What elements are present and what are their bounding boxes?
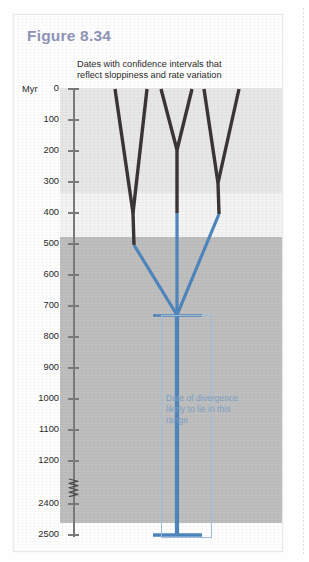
divergence-error-bar (14, 15, 282, 551)
range-note-line-2: likely to lie in this (166, 404, 258, 415)
divergence-range-box (161, 315, 212, 538)
page-background: Dates with confidence intervals that ref… (0, 0, 309, 562)
page-column-rule (303, 8, 304, 554)
range-note-line-1: Date of divergence (166, 393, 258, 404)
figure-title: Figure 8.34 (27, 27, 111, 45)
figure-card: Dates with confidence intervals that ref… (13, 14, 283, 552)
divergence-range-note: Date of divergence likely to lie in this… (166, 393, 258, 426)
range-note-line-3: range (166, 415, 258, 426)
plot-area: Dates with confidence intervals that ref… (14, 15, 282, 551)
